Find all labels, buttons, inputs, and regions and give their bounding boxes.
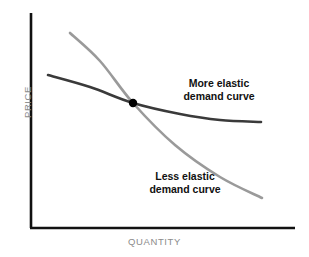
chart-canvas	[0, 0, 309, 257]
elasticity-chart: PRICE QUANTITY More elastic demand curve…	[0, 0, 309, 257]
more-elastic-curve-label: More elastic demand curve	[163, 77, 275, 103]
more-elastic-label-line2: demand curve	[163, 90, 275, 103]
less-elastic-curve-label: Less elastic demand curve	[129, 170, 241, 196]
x-axis-title: QUANTITY	[0, 236, 309, 247]
less-elastic-label-line2: demand curve	[129, 183, 241, 196]
y-axis-title: PRICE	[22, 72, 33, 132]
more-elastic-label-line1: More elastic	[163, 77, 275, 90]
intersection-point-marker	[129, 99, 137, 107]
less-elastic-label-line1: Less elastic	[129, 170, 241, 183]
